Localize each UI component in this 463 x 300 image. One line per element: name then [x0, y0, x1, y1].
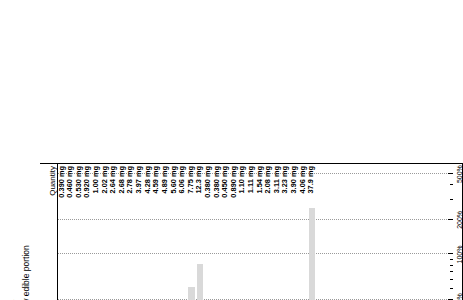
- value-bar: [309, 208, 316, 300]
- value-bar: [188, 287, 195, 300]
- axis-minor-tick: [450, 259, 453, 260]
- column-headers: Vol./Page Food Quantity: [40, 163, 57, 300]
- axis-minor-tick: [450, 279, 453, 280]
- value-bar: [197, 264, 204, 300]
- axis-minor-tick: [450, 265, 453, 266]
- axis-minor-tick: [450, 184, 453, 185]
- axis-tick: [448, 173, 453, 174]
- column-header-quantity: Quantity: [48, 166, 57, 196]
- axis-minor-tick: [450, 199, 453, 200]
- axis-tick: [448, 219, 453, 220]
- chart-row[interactable]: 1/253Oyster37.9 mg: [308, 163, 317, 300]
- axis-tick: [448, 253, 453, 254]
- axis-minor-tick: [450, 271, 453, 272]
- zinc-chart-figure: ZINC per each 100 g of raw edible portio…: [0, 163, 463, 300]
- axis-minor-tick: [450, 288, 453, 289]
- chart-screenshot: ZINC per each 100 g of raw edible portio…: [0, 0, 463, 300]
- axis-tick-row: 2%4%10%20%40%100%200%500%: [447, 163, 463, 300]
- chart-title: ZINC: [6, 163, 18, 300]
- chart-rows: 2/201Potato0.390 mg2/250Asparagus0.460 m…: [58, 163, 447, 300]
- row-quantity: 37.9 mg: [307, 166, 316, 194]
- chart-subtitle: per each 100 g of raw edible portion: [21, 163, 31, 300]
- rotated-figure-container: ZINC per each 100 g of raw edible portio…: [0, 163, 463, 300]
